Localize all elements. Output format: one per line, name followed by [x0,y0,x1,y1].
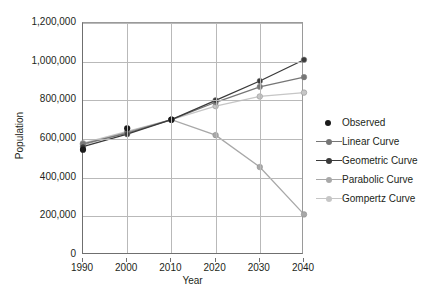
x-axis-title: Year [82,275,303,286]
gridline-vertical [260,23,261,253]
y-tick-label: 200,000 [40,210,76,220]
gridline-horizontal [83,23,302,24]
gridline-horizontal [83,139,302,140]
legend-item-geometric-curve[interactable]: Geometric Curve [316,151,440,170]
legend-item-gompertz-curve[interactable]: Gompertz Curve [316,189,440,208]
series-parabolic-curve [80,117,307,217]
legend-marker-icon [316,155,342,167]
legend-dot [326,196,332,202]
legend-marker-icon [316,117,342,129]
data-point [301,212,307,218]
legend-dot [325,120,331,126]
legend-item-observed[interactable]: Observed [316,113,440,132]
y-tick-label: 800,000 [40,94,76,104]
gridline-vertical [127,23,128,253]
legend-marker-icon [316,136,342,148]
x-tick-label: 2040 [292,262,314,274]
data-point [301,74,307,80]
gridline-horizontal [83,62,302,63]
y-axis-tick-labels: 0200,000400,000600,000800,0001,000,0001,… [0,22,76,254]
legend-dot [326,177,332,183]
x-axis-tick-labels: 199020002010202020302040 [82,258,303,272]
x-tick-label: 2000 [115,262,137,274]
gridline-vertical [216,23,217,253]
gridline-horizontal [83,216,302,217]
legend-label: Parabolic Curve [342,174,413,186]
gridline-horizontal [83,178,302,179]
legend-item-linear-curve[interactable]: Linear Curve [316,132,440,151]
gridline-vertical [171,23,172,253]
y-tick-label: 400,000 [40,172,76,182]
plot-area [82,22,303,254]
x-tick-label: 2020 [203,262,225,274]
data-point [301,57,307,63]
legend-label: Observed [342,117,385,129]
legend-marker-icon [316,193,342,205]
gridline-horizontal [83,100,302,101]
legend-label: Linear Curve [342,136,399,148]
legend-label: Geometric Curve [342,155,418,167]
chart-legend: ObservedLinear CurveGeometric CurveParab… [316,113,440,208]
data-point [80,147,86,153]
legend-item-parabolic-curve[interactable]: Parabolic Curve [316,170,440,189]
legend-marker-icon [316,174,342,186]
y-tick-label: 600,000 [40,133,76,143]
legend-dot [326,158,332,164]
x-tick-label: 2010 [159,262,181,274]
y-tick-label: 1,000,000 [32,56,77,66]
legend-label: Gompertz Curve [342,193,415,205]
legend-dot [326,139,332,145]
population-projection-chart: Population 0200,000400,000600,000800,000… [0,0,440,306]
y-tick-label: 0 [70,249,76,259]
x-tick-label: 1990 [71,262,93,274]
figure-caption [24,296,424,306]
y-tick-label: 1,200,000 [32,17,77,27]
data-point [301,90,307,96]
x-tick-label: 2030 [248,262,270,274]
